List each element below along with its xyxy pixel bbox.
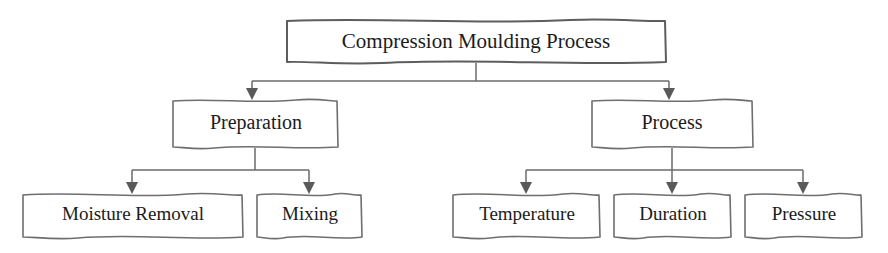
arrowhead-process-to-pressure (797, 182, 809, 194)
arrowhead-preparation-to-moisture-removal (126, 182, 138, 194)
node-compression-moulding-process[interactable]: Compression Moulding Process (287, 19, 666, 63)
node-label-process: Process (641, 111, 702, 133)
connector-group-preparation (126, 148, 315, 194)
arrowhead-preparation-to-mixing (303, 182, 315, 194)
arrowhead-root-to-preparation (246, 88, 258, 100)
arrowhead-root-to-process (663, 88, 675, 100)
node-duration[interactable]: Duration (614, 193, 731, 238)
node-label-pressure: Pressure (772, 203, 836, 224)
node-label-moisture-removal: Moisture Removal (62, 203, 204, 224)
diagram-canvas: Compression Moulding Process Preparation… (0, 0, 888, 253)
connector-group-process (520, 148, 809, 194)
node-label-duration: Duration (639, 203, 707, 224)
arrowhead-process-to-duration (666, 182, 678, 194)
node-label-preparation: Preparation (210, 111, 302, 134)
compression-moulding-process-diagram: Compression Moulding Process Preparation… (0, 0, 888, 253)
node-mixing[interactable]: Mixing (257, 193, 362, 238)
node-pressure[interactable]: Pressure (745, 193, 862, 238)
node-label-mixing: Mixing (282, 203, 338, 224)
node-label-temperature: Temperature (479, 203, 575, 224)
node-temperature[interactable]: Temperature (453, 193, 600, 238)
node-moisture-removal[interactable]: Moisture Removal (23, 193, 243, 238)
arrowhead-process-to-temperature (520, 182, 532, 194)
node-process[interactable]: Process (592, 99, 753, 148)
node-preparation[interactable]: Preparation (173, 99, 338, 148)
node-label-root: Compression Moulding Process (342, 29, 610, 53)
connector-group-root (246, 63, 675, 100)
